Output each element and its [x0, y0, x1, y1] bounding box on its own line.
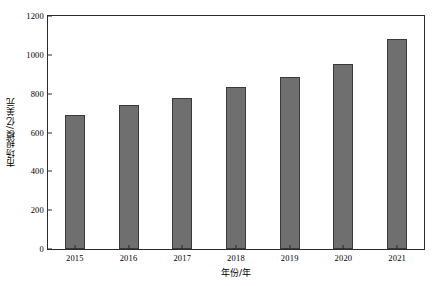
x-axis-tick-mark	[236, 245, 237, 249]
y-axis-tick-label: 1000	[26, 51, 44, 60]
y-axis-tick-label: 200	[31, 206, 44, 215]
y-axis-tick-label: 0	[40, 245, 44, 254]
x-axis-tick-mark	[128, 245, 129, 249]
bar-2020	[333, 64, 353, 249]
y-axis-tick-mark	[48, 16, 52, 17]
x-axis-tick-label-2017: 2017	[173, 254, 191, 263]
y-axis-tick-label: 600	[31, 128, 44, 137]
y-axis-tick-mark	[48, 54, 52, 55]
x-axis-tick-label-2019: 2019	[281, 254, 299, 263]
x-axis-tick-mark	[182, 245, 183, 249]
x-axis-title: 年份/年	[47, 266, 425, 279]
y-axis-title: 市场规模/亿美元	[2, 15, 16, 250]
bar-2017	[172, 98, 192, 249]
bar-2018	[226, 87, 246, 249]
x-axis-tick-mark	[397, 245, 398, 249]
y-axis-tick-mark	[48, 171, 52, 172]
y-axis-tick-mark	[48, 249, 52, 250]
y-axis-tick-label: 800	[31, 89, 44, 98]
y-axis-tick-mark	[48, 210, 52, 211]
y-axis-tick-label: 400	[31, 167, 44, 176]
x-axis-tick-label-2021: 2021	[388, 254, 406, 263]
bar-chart-figure: 市场规模/亿美元 0200400600800100012002015201620…	[0, 0, 442, 286]
bar-2019	[280, 77, 300, 249]
y-axis-tick-mark	[48, 93, 52, 94]
y-axis-title-text: 市场规模/亿美元	[3, 97, 16, 167]
bar-2015	[65, 115, 85, 249]
x-axis-tick-label-2020: 2020	[335, 254, 353, 263]
y-axis-tick-mark	[48, 132, 52, 133]
bar-2016	[119, 105, 139, 249]
plot-area: 0200400600800100012002015201620172018201…	[47, 15, 425, 250]
x-axis-tick-mark	[343, 245, 344, 249]
bar-2021	[387, 39, 407, 249]
y-axis-tick-label: 1200	[26, 12, 44, 21]
x-axis-tick-label-2016: 2016	[120, 254, 138, 263]
x-axis-tick-mark	[74, 245, 75, 249]
x-axis-tick-label-2015: 2015	[66, 254, 84, 263]
x-axis-tick-mark	[289, 245, 290, 249]
x-axis-tick-label-2018: 2018	[227, 254, 245, 263]
